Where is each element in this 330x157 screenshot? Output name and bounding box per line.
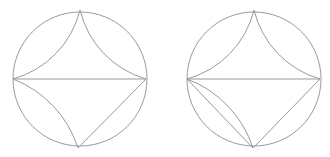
diagram-canvas xyxy=(0,0,330,157)
right-disk-figure xyxy=(187,10,321,148)
left-disk-figure xyxy=(13,10,147,148)
